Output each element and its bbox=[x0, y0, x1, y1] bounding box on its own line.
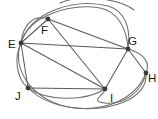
edge-E-G bbox=[21, 43, 128, 49]
straight-edge-group bbox=[21, 19, 146, 89]
vertex-dot-J bbox=[26, 86, 31, 91]
curved-edge-J-I-outer bbox=[28, 73, 146, 109]
vertex-label-J: J bbox=[15, 90, 21, 102]
vertex-dot-F bbox=[46, 17, 51, 22]
vertex-dot-E bbox=[19, 41, 24, 46]
curved-edge-E-G-outer-top bbox=[21, 4, 129, 49]
curved-edge-group bbox=[17, 0, 148, 109]
vertex-label-I: I bbox=[110, 92, 113, 104]
vertex-dot-G bbox=[126, 47, 131, 52]
edge-G-I bbox=[105, 49, 128, 89]
vertex-label-H: H bbox=[148, 72, 156, 84]
graph-figure: E F G H I J bbox=[0, 0, 158, 119]
vertex-label-group: E F G H I J bbox=[8, 24, 156, 104]
vertex-label-E: E bbox=[8, 38, 16, 50]
edge-J-I bbox=[28, 88, 105, 89]
graph-canvas: E F G H I J bbox=[0, 0, 158, 119]
vertex-dot-I bbox=[103, 87, 108, 92]
vertex-label-G: G bbox=[128, 35, 137, 47]
edge-E-I bbox=[21, 43, 105, 89]
vertex-label-F: F bbox=[41, 24, 48, 36]
